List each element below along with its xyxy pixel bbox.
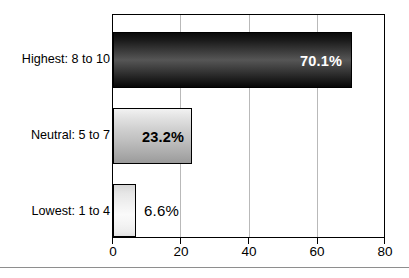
tick-label-40: 40 [241, 245, 256, 259]
bar-neutral: 23.2% [113, 108, 192, 164]
bar-value-highest: 70.1% [300, 54, 342, 69]
category-label-lowest: Lowest: 1 to 4 [32, 205, 110, 218]
bar-highest: 70.1% [113, 32, 352, 88]
category-label-highest: Highest: 8 to 10 [22, 53, 110, 66]
tick-label-20: 20 [173, 245, 188, 259]
tick-label-60: 60 [309, 245, 324, 259]
plot-area: 70.1% 23.2% 6.6% [112, 14, 385, 238]
bar-lowest [113, 184, 136, 237]
tick-label-0: 0 [109, 245, 117, 259]
footer-divider [0, 267, 409, 268]
bar-value-neutral: 23.2% [142, 130, 184, 145]
bar-value-lowest: 6.6% [144, 203, 179, 218]
bar-chart-figure: Highest: 8 to 10 Neutral: 5 to 7 Lowest:… [0, 0, 409, 278]
tick-label-80: 80 [377, 245, 392, 259]
category-label-neutral: Neutral: 5 to 7 [31, 129, 110, 142]
